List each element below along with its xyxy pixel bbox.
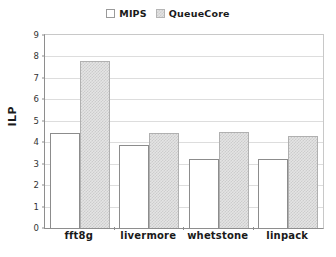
bars-layer [45, 35, 323, 228]
x-tick-label-livermore: livermore [120, 231, 176, 241]
bar-linpack-mips [258, 159, 288, 228]
bar-linpack-queuecore [288, 136, 318, 228]
x-tick-label-linpack: linpack [266, 231, 308, 241]
y-tick-label: 5 [34, 117, 39, 126]
y-tick-label: 0 [34, 224, 39, 233]
legend-entry-mips: MIPS [106, 9, 147, 19]
legend-label-mips: MIPS [119, 9, 147, 19]
x-tick-label-whetstone: whetstone [187, 231, 248, 241]
ilp-bar-chart: MIPS QueueCore ILP 0123456789 fft8gliver… [0, 0, 336, 257]
bar-group [45, 35, 323, 228]
y-tick-label: 3 [34, 159, 39, 168]
plot-area: 0123456789 [44, 34, 324, 229]
legend-swatch-mips-icon [106, 9, 115, 18]
y-tick-label: 6 [34, 95, 39, 104]
legend-swatch-queuecore-icon [156, 9, 165, 18]
x-axis-category-labels: fft8glivermorewhetstonelinpack [44, 231, 322, 251]
chart-legend: MIPS QueueCore [0, 9, 336, 19]
x-tick-mark [114, 227, 115, 230]
y-tick-label: 9 [34, 31, 39, 40]
y-tick-label: 8 [34, 52, 39, 61]
y-tick-label: 2 [34, 181, 39, 190]
x-tick-label-fft8g: fft8g [64, 231, 93, 241]
y-axis-title: ILP [6, 111, 19, 127]
y-tick-label: 4 [34, 138, 39, 147]
y-tick-label: 1 [34, 202, 39, 211]
x-tick-mark [183, 227, 184, 230]
legend-label-queuecore: QueueCore [169, 9, 230, 19]
legend-entry-queuecore: QueueCore [156, 9, 230, 19]
y-tick-label: 7 [34, 74, 39, 83]
x-tick-mark [253, 227, 254, 230]
